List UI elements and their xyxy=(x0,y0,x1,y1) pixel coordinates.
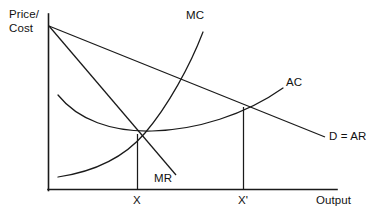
x-axis-label: Output xyxy=(316,194,351,208)
marginal-cost-curve xyxy=(58,32,203,177)
y-axis-label: Price/Cost xyxy=(9,8,39,35)
mc-curve-label: MC xyxy=(186,9,204,23)
demand-ar-label: D = AR xyxy=(329,130,366,144)
economics-diagram: Price/Cost MC AC D = AR MR X X' Output xyxy=(0,0,382,217)
average-cost-curve xyxy=(58,88,283,131)
y-axis-label-line1: Price/ xyxy=(9,8,39,20)
y-axis-label-line2: Cost xyxy=(9,22,33,34)
ac-curve-label: AC xyxy=(286,76,302,90)
mr-line-label: MR xyxy=(154,172,172,186)
x-tick-label: X xyxy=(133,194,141,208)
chart-canvas xyxy=(0,0,382,217)
marginal-revenue-line xyxy=(49,26,176,175)
x-prime-tick-label: X' xyxy=(238,194,248,208)
